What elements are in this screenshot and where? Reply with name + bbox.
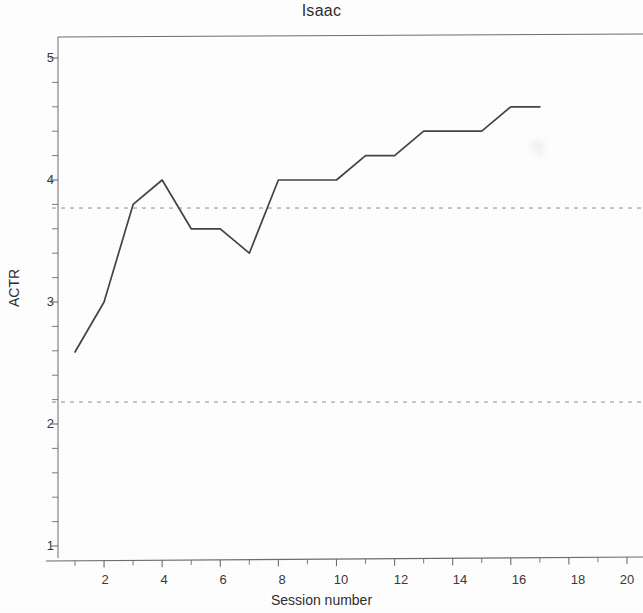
y-axis-ticks	[50, 58, 58, 546]
reference-lines	[52, 208, 643, 402]
plot-area	[0, 0, 643, 613]
plot-frame-top	[58, 34, 643, 37]
x-axis-spine	[46, 557, 643, 561]
chart-figure: Isaac ACTR Session number 5 4 3 2 1 2 4 …	[0, 0, 643, 613]
data-series-line	[75, 107, 540, 352]
